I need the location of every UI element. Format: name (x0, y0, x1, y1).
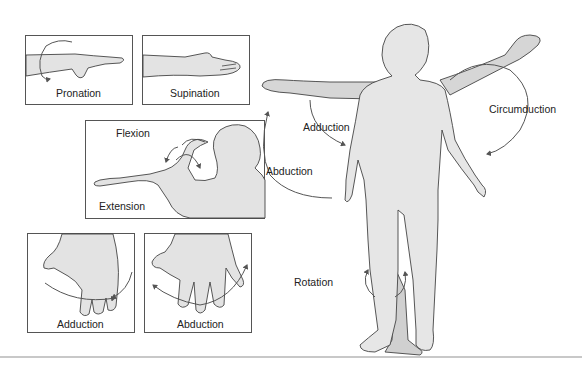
supination-label: Supination (170, 87, 220, 99)
arm-adduction-label: Adduction (303, 121, 350, 133)
joint-movements-diagram: Pronation Supination Flexion Extension A… (0, 0, 582, 365)
pronation-arm-illustration (26, 41, 124, 80)
rotation-label: Rotation (294, 276, 333, 288)
finger-adduction-label: Adduction (57, 318, 104, 330)
circumduction-label: Circumduction (489, 103, 556, 115)
bottom-divider (0, 356, 582, 358)
extension-label: Extension (99, 200, 145, 212)
finger-adduction-hand-illustration (44, 234, 132, 316)
supination-arm-illustration (143, 53, 240, 77)
finger-abduction-label: Abduction (177, 318, 224, 330)
arm-abduction-label: Abduction (266, 165, 313, 177)
pronation-label: Pronation (56, 87, 101, 99)
finger-abduction-hand-illustration (152, 234, 247, 313)
full-body-illustration (262, 24, 540, 355)
flexion-label: Flexion (116, 127, 150, 139)
illustration-layer (0, 0, 582, 365)
